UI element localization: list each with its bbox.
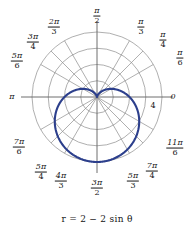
angle-label-pi-over-6: π 6 [176,49,183,68]
angle-label-0: 0 [170,93,175,101]
angle-label-3pi-over-2: 3π 2 [91,179,103,198]
fraction-pi-6: π 6 [176,49,183,68]
polar-plot-figure: 0 π 6 π 4 π 3 π 2 2π 3 3π 4 [0,0,194,236]
fraction-7pi-6: 7π 6 [13,138,25,157]
angle-label-7pi-over-4: 7π 4 [146,162,158,181]
fraction-pi-3: π 3 [137,18,144,37]
angle-label-5pi-over-6: 5π 6 [11,52,23,71]
angle-label-11pi-over-6: 11π 6 [166,139,183,158]
angle-label-7pi-over-6: 7π 6 [13,138,25,157]
angle-label-pi-over-3: π 3 [137,18,144,37]
fraction-2pi-3: 2π 3 [48,18,60,37]
angle-label-2pi-over-3: 2π 3 [48,18,60,37]
fraction-4pi-3: 4π 3 [55,172,67,191]
fraction-7pi-4: 7π 4 [146,162,158,181]
radial-tick-label-4: 4 [150,101,155,110]
fraction-5pi-3: 5π 3 [127,172,139,191]
angle-label-pi: π [9,93,14,101]
fraction-3pi-2: 3π 2 [91,179,103,198]
fraction-pi-4: π 4 [159,31,166,50]
fraction-5pi-4: 5π 4 [35,163,47,182]
angle-label-3pi-over-4: 3π 4 [27,33,39,52]
angle-label-pi-over-4: π 4 [159,31,166,50]
figure-caption: r = 2 − 2 sin θ [0,214,194,224]
fraction-11pi-6: 11π 6 [166,139,183,158]
angle-label-pi-over-2: π 2 [93,7,100,26]
angle-label-5pi-over-3: 5π 3 [127,172,139,191]
angle-label-4pi-over-3: 4π 3 [55,172,67,191]
fraction-3pi-4: 3π 4 [27,33,39,52]
fraction-pi-2: π 2 [93,7,100,26]
fraction-5pi-6: 5π 6 [11,52,23,71]
angle-label-5pi-over-4: 5π 4 [35,163,47,182]
